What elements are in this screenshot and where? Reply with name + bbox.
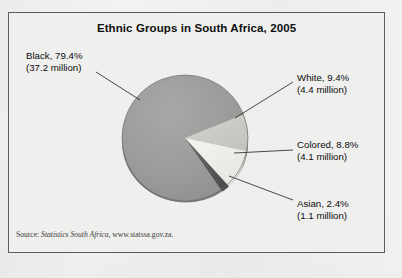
slice-label-asian: Asian, 2.4% (1.1 million) <box>297 198 349 222</box>
slice-label-asian-line2: (1.1 million) <box>297 210 349 222</box>
source-note: Source: Statistics South Africa, www.sta… <box>16 230 173 239</box>
leader-line-black <box>96 72 140 100</box>
leader-line-asian <box>229 176 293 200</box>
leader-line-white <box>235 82 293 118</box>
slice-label-white-line1: White, 9.4% <box>297 72 349 83</box>
slice-label-asian-line1: Asian, 2.4% <box>297 198 349 209</box>
slice-label-colored: Colored, 8.8% (4.1 million) <box>297 139 358 163</box>
slice-label-white-line2: (4.4 million) <box>297 84 349 96</box>
slice-label-colored-line1: Colored, 8.8% <box>297 139 358 150</box>
source-lead: Source: <box>16 230 39 239</box>
source-url: www.statssa.gov.za. <box>112 230 173 239</box>
slice-label-black-line1: Black, 79.4% <box>26 50 83 61</box>
source-publisher: Statistics South Africa, <box>41 230 110 239</box>
slice-label-black-line2: (37.2 million) <box>26 62 83 74</box>
slice-label-white: White, 9.4% (4.4 million) <box>297 72 349 96</box>
slice-label-black: Black, 79.4% (37.2 million) <box>26 50 83 74</box>
slice-label-colored-line2: (4.1 million) <box>297 151 358 163</box>
